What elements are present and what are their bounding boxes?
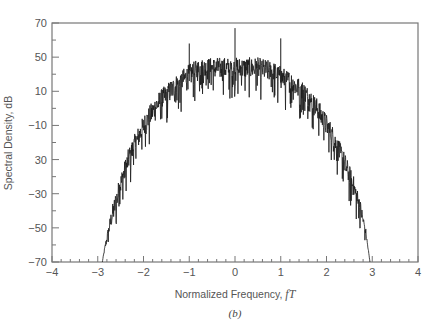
- x-axis-ticks: −4−3−2−101234: [46, 256, 421, 278]
- y-tick-label: −70: [28, 256, 47, 268]
- spectral-density-trace: [102, 28, 370, 262]
- spectral-density-chart: −4−3−2−101234 705010−1030−30−50−70 Norma…: [0, 0, 436, 321]
- y-tick-label: 50: [35, 51, 47, 63]
- y-tick-label: 70: [35, 17, 47, 29]
- y-axis-title: Spectral Density, dB: [2, 96, 14, 190]
- x-tick-label: −1: [183, 266, 196, 278]
- figure-caption: (b): [229, 307, 242, 320]
- y-tick-label: −10: [28, 119, 47, 131]
- y-tick-label: 10: [35, 85, 47, 97]
- x-tick-label: 0: [232, 266, 238, 278]
- x-tick-label: 4: [415, 266, 421, 278]
- y-tick-label: 30: [35, 154, 47, 166]
- y-tick-label: −50: [28, 222, 47, 234]
- x-tick-label: −2: [137, 266, 150, 278]
- x-tick-label: 2: [323, 266, 329, 278]
- y-axis-ticks: 705010−1030−30−50−70: [28, 17, 59, 268]
- x-axis-title: Normalized Frequency, fT: [175, 287, 297, 301]
- x-tick-label: −4: [46, 266, 59, 278]
- x-tick-label: 1: [278, 266, 284, 278]
- x-tick-label: 3: [369, 266, 375, 278]
- x-tick-label: −3: [91, 266, 104, 278]
- y-tick-label: −30: [28, 188, 47, 200]
